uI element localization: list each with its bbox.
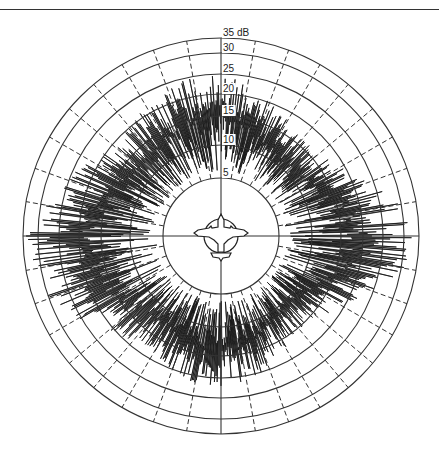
tick-label-15: 15: [223, 105, 235, 116]
tick-label-10: 10: [223, 134, 235, 145]
tick-label-5: 5: [223, 167, 229, 178]
tick-label-35: 35 dB: [223, 27, 249, 38]
polar-rcs-chart: 35 dB 30 25 20 15 10 5: [0, 0, 439, 458]
tick-label-30: 30: [223, 42, 235, 53]
tick-label-25: 25: [223, 63, 235, 74]
tick-label-20: 20: [223, 83, 235, 94]
